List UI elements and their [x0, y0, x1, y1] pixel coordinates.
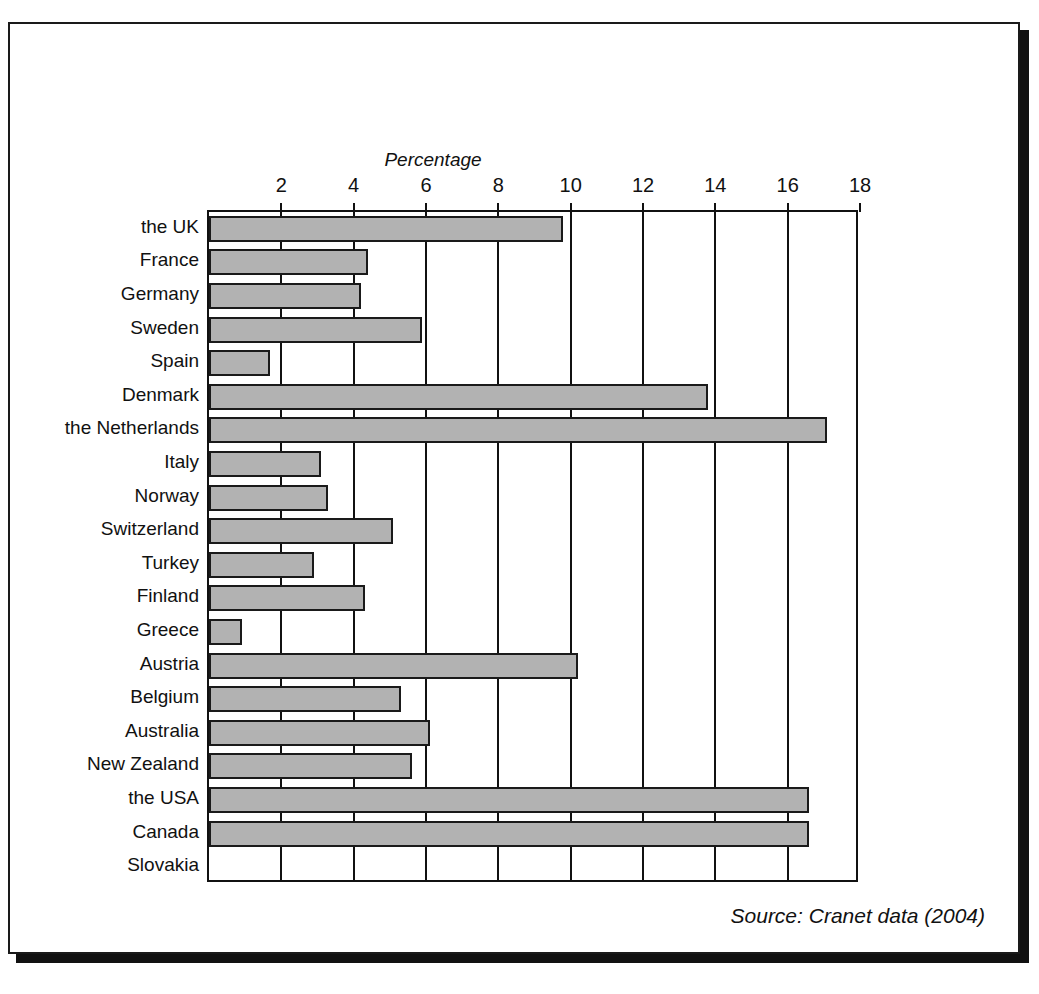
x-tick-label-10: 10 [541, 174, 601, 197]
x-tick-label-4: 4 [324, 174, 384, 197]
category-label: New Zealand [0, 753, 199, 775]
bar [209, 451, 321, 477]
scanned-page-frame: Percentage 24681012141618the UKFranceGer… [8, 22, 1020, 954]
category-label: the USA [0, 787, 199, 809]
bar [209, 317, 422, 343]
gridline-4 [353, 212, 355, 880]
gridline-14 [714, 212, 716, 880]
x-tick-2 [280, 203, 282, 212]
category-label: Slovakia [0, 854, 199, 876]
source-note: Source: Cranet data (2004) [10, 904, 985, 928]
bar [209, 417, 827, 443]
x-tick-16 [787, 203, 789, 212]
x-tick-label-12: 12 [613, 174, 673, 197]
category-label: Sweden [0, 317, 199, 339]
gridline-8 [497, 212, 499, 880]
x-tick-10 [570, 203, 572, 212]
bar [209, 720, 430, 746]
category-label: Denmark [0, 384, 199, 406]
category-label: Spain [0, 350, 199, 372]
bar [209, 384, 708, 410]
bar [209, 753, 412, 779]
x-tick-8 [497, 203, 499, 212]
category-label: Australia [0, 720, 199, 742]
x-tick-14 [714, 203, 716, 212]
category-label: Finland [0, 585, 199, 607]
bar [209, 485, 328, 511]
bar [209, 821, 809, 847]
gridline-6 [425, 212, 427, 880]
bar [209, 653, 578, 679]
category-label: Turkey [0, 552, 199, 574]
gridline-12 [642, 212, 644, 880]
bar [209, 283, 361, 309]
bar [209, 686, 401, 712]
cropped-header-fragment: , , [330, 6, 990, 17]
category-label: Norway [0, 485, 199, 507]
bar [209, 518, 393, 544]
category-label: Italy [0, 451, 199, 473]
plot-area: 24681012141618the UKFranceGermanySwedenS… [207, 210, 858, 882]
category-label: Belgium [0, 686, 199, 708]
x-tick-label-14: 14 [685, 174, 745, 197]
gridline-2 [280, 212, 282, 880]
x-tick-label-6: 6 [396, 174, 456, 197]
bar [209, 216, 563, 242]
category-label: Canada [0, 821, 199, 843]
bar [209, 552, 314, 578]
gridline-10 [570, 212, 572, 880]
category-label: the Netherlands [0, 417, 199, 439]
category-label: Greece [0, 619, 199, 641]
category-label: Switzerland [0, 518, 199, 540]
category-label: France [0, 249, 199, 271]
x-tick-label-8: 8 [468, 174, 528, 197]
x-tick-label-2: 2 [251, 174, 311, 197]
x-tick-label-16: 16 [758, 174, 818, 197]
category-label: Austria [0, 653, 199, 675]
x-tick-12 [642, 203, 644, 212]
category-label: the UK [0, 216, 199, 238]
x-tick-18 [859, 203, 861, 212]
x-axis-title: Percentage [10, 149, 856, 171]
bar-chart: Percentage 24681012141618the UKFranceGer… [10, 24, 1018, 952]
category-label: Germany [0, 283, 199, 305]
x-tick-label-18: 18 [830, 174, 890, 197]
bar [209, 249, 368, 275]
gridline-16 [787, 212, 789, 880]
x-tick-4 [353, 203, 355, 212]
bar [209, 787, 809, 813]
bar [209, 585, 365, 611]
bar [209, 350, 270, 376]
x-tick-6 [425, 203, 427, 212]
bar [209, 619, 242, 645]
